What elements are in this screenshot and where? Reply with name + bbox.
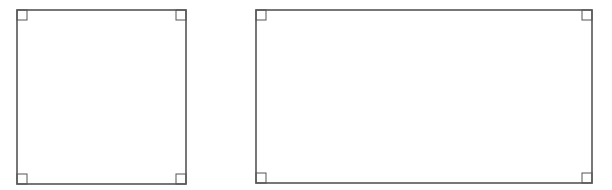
right-angle-marker-bottom-left [256,173,266,183]
right-angle-marker-top-left [256,10,266,20]
right-angle-marker-bottom-left [17,174,27,184]
right-angle-marker-top-left [17,10,27,20]
square-outline [17,10,186,184]
square-shape [17,10,186,184]
shapes-diagram [0,0,612,190]
rectangle-shape [256,10,592,183]
right-angle-marker-top-right [582,10,592,20]
right-angle-marker-bottom-right [176,174,186,184]
rectangle-outline [256,10,592,183]
right-angle-marker-top-right [176,10,186,20]
right-angle-marker-bottom-right [582,173,592,183]
